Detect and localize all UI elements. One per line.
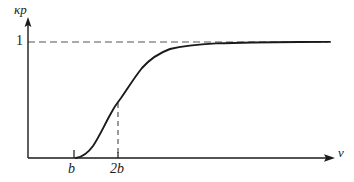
y-tick-label-1: 1: [16, 34, 23, 48]
figure-container: κp v 1 b 2b: [0, 0, 354, 182]
x-tick-label-2b: 2b: [110, 162, 124, 176]
x-axis-label: v: [338, 146, 344, 159]
kp-curve: [76, 42, 330, 158]
x-tick-label-b: b: [68, 162, 75, 176]
y-axis-label: κp: [14, 3, 27, 16]
plot-area: [0, 0, 354, 182]
